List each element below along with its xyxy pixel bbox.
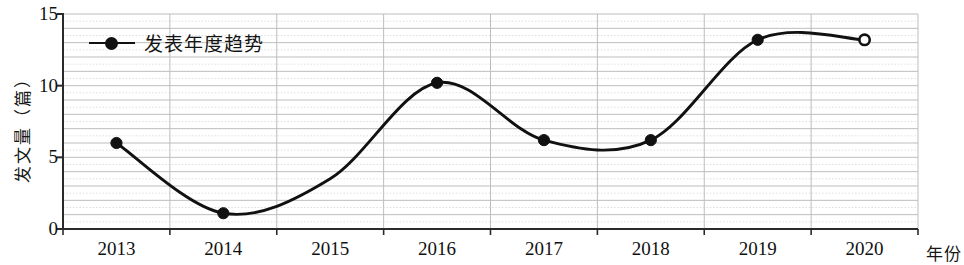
x-tick-label: 2016 <box>397 238 477 260</box>
x-tick-label: 2019 <box>718 238 798 260</box>
legend-label: 发表年度趋势 <box>144 29 264 56</box>
y-tick-label: 15 <box>24 4 58 23</box>
x-tick-label: 2013 <box>76 238 156 260</box>
x-axis-title: 年份 <box>926 240 962 265</box>
data-point-marker <box>218 208 229 219</box>
legend-marker-icon <box>89 36 135 50</box>
data-point-marker <box>431 77 442 88</box>
data-point-marker <box>752 34 763 45</box>
data-point-marker <box>538 135 549 146</box>
data-point-marker <box>111 137 122 148</box>
x-tick-label: 2017 <box>504 238 584 260</box>
y-tick-label: 10 <box>24 76 58 95</box>
x-tick-label: 2020 <box>825 238 905 260</box>
y-tick-label: 0 <box>24 219 58 238</box>
data-point-marker <box>859 35 869 45</box>
x-tick-label: 2018 <box>611 238 691 260</box>
y-tick-label: 5 <box>24 147 58 166</box>
x-tick-label: 2015 <box>290 238 370 260</box>
data-point-marker <box>645 135 656 146</box>
x-tick-label: 2014 <box>183 238 263 260</box>
y-tick-label-group: 15 10 5 0 <box>18 0 58 252</box>
chart-legend[interactable]: 发表年度趋势 <box>89 29 264 56</box>
